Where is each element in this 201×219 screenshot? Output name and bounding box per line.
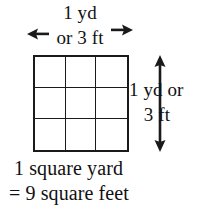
arrow-right-icon — [110, 23, 133, 37]
grid-cell — [96, 119, 127, 150]
grid-cell — [66, 57, 97, 88]
side-height-label-line1: 1 yd or — [129, 80, 201, 99]
grid-cell — [66, 88, 97, 119]
grid-cell — [96, 57, 127, 88]
grid-cell — [35, 88, 66, 119]
caption-line2: = 9 square feet — [9, 183, 129, 203]
grid-cell — [66, 119, 97, 150]
top-width-label-line1: 1 yd — [0, 3, 160, 22]
square-yard-diagram: 1 yd or 3 ft 1 yd or 3 f — [0, 0, 201, 219]
arrow-left-icon — [27, 27, 49, 41]
grid-cell — [96, 88, 127, 119]
unit-square-grid — [33, 55, 129, 152]
caption-line1: 1 square yard — [14, 158, 123, 178]
grid-cell — [35, 57, 66, 88]
side-height-label-line2: 3 ft — [129, 105, 185, 124]
top-width-label-line2: or 3 ft — [0, 28, 160, 47]
grid-cell — [35, 119, 66, 150]
